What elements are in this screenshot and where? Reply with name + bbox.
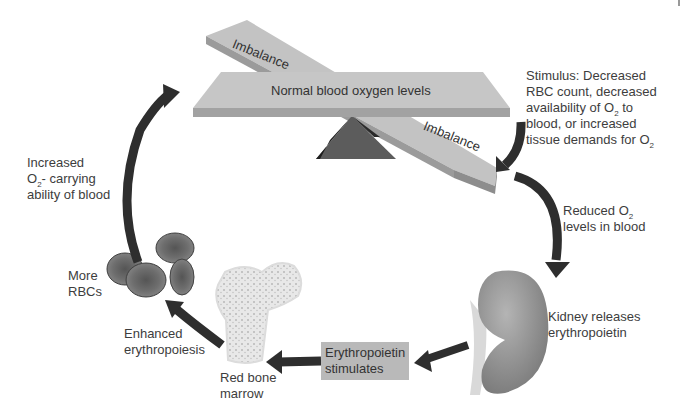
- red-blood-cells: [107, 233, 194, 297]
- label-red-bone-marrow: Red bone marrow: [220, 370, 276, 402]
- label-reduced-o2: Reduced O2 levels in blood: [563, 203, 645, 235]
- kidney-illustration: [470, 271, 548, 395]
- plank-label-normal: Normal blood oxygen levels: [271, 83, 431, 98]
- bone-illustration: [216, 263, 301, 363]
- arrow-reduced-o2: [515, 176, 570, 278]
- label-kidney: Kidney releases erythropoietin: [548, 309, 641, 341]
- arrow-kidney-to-epo: [414, 345, 468, 372]
- label-more-rbcs: More RBCs: [68, 268, 102, 300]
- arrow-stimulus: [496, 122, 521, 172]
- label-increased-o2-capacity: Increased O2- carrying ability of blood: [27, 155, 110, 203]
- label-enhanced-erythropoiesis: Enhanced erythropoiesis: [124, 326, 205, 358]
- epo-stimulates-box: Erythropoietin stimulates: [321, 342, 409, 380]
- label-stimulus: Stimulus: Decreased RBC count, decreased…: [526, 68, 657, 148]
